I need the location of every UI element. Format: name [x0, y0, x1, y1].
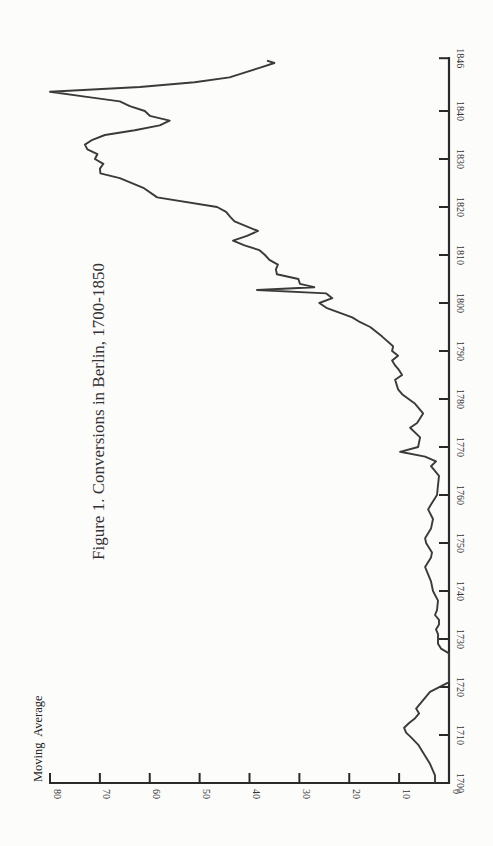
year-tick-label: 1820 — [455, 197, 466, 217]
value-tick-label: 70 — [101, 789, 112, 799]
year-tick-label: 1790 — [455, 341, 466, 361]
year-tick-label: 1840 — [455, 101, 466, 121]
year-tick-label: 1730 — [455, 629, 466, 649]
year-tick-label: 1780 — [455, 389, 466, 409]
chart: Figure 1. Conversions in Berlin, 1700-18… — [0, 0, 493, 846]
value-tick-label: 50 — [201, 789, 212, 799]
year-tick-label: 1760 — [455, 485, 466, 505]
year-tick-label: 1740 — [455, 581, 466, 601]
y-axis-title: Moving Average — [31, 695, 45, 782]
year-tick-label: 1700 — [455, 773, 466, 793]
year-tick-label: 1770 — [455, 437, 466, 457]
value-tick-label: 20 — [351, 789, 362, 799]
year-tick-label: 1830 — [455, 149, 466, 169]
value-tick-label: 80 — [52, 789, 63, 799]
year-tick-label: 1710 — [455, 725, 466, 745]
value-tick-label: 60 — [151, 789, 162, 799]
year-tick-label: 1720 — [455, 677, 466, 697]
year-tick-label: 1800 — [455, 293, 466, 313]
series-line-moving-average — [50, 61, 449, 783]
value-tick-label: 30 — [301, 789, 312, 799]
value-tick-label: 10 — [401, 789, 412, 799]
year-tick-label: 1846 — [455, 48, 466, 68]
year-tick-label: 1750 — [455, 533, 466, 553]
value-tick-label: 40 — [251, 789, 262, 799]
chart-title: Figure 1. Conversions in Berlin, 1700-18… — [89, 263, 108, 560]
year-tick-label: 1810 — [455, 245, 466, 265]
